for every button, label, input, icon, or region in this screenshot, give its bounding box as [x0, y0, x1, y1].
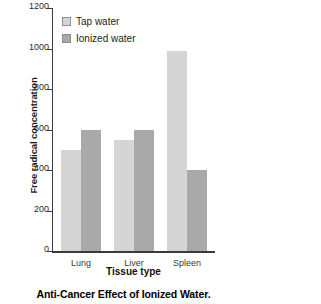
bar-liver-ionized-water [134, 130, 154, 252]
y-axis-tick-label: 400 [34, 163, 49, 173]
bar-liver-tap-water [114, 140, 134, 251]
legend-swatch-icon-tap [62, 17, 71, 26]
figure-caption: Anti-Cancer Effect of Ionized Water. [0, 288, 247, 300]
bar-spleen-tap-water [167, 51, 187, 251]
legend-label: Tap water [76, 16, 119, 27]
x-axis-line [52, 251, 215, 253]
legend-swatch-icon-ion [62, 34, 71, 43]
y-axis-tick-label: 600 [34, 123, 49, 133]
bar-lung-ionized-water [81, 130, 101, 252]
bar-lung-tap-water [61, 150, 81, 251]
chart-legend: Tap waterIonized water [62, 14, 135, 48]
figure-bar-chart: Free radical concentration 0200400600800… [0, 0, 321, 304]
y-axis-tick-label: 1200 [29, 1, 49, 11]
y-axis-title: Free radical concentration [28, 51, 39, 221]
legend-label: Ionized water [76, 33, 135, 44]
y-axis-tick-label: 800 [34, 82, 49, 92]
legend-item-tap: Tap water [62, 14, 135, 29]
y-axis-tick-label: 0 [44, 244, 49, 254]
y-axis-line [52, 8, 53, 251]
y-axis-tick-label: 1000 [29, 42, 49, 52]
legend-item-ion: Ionized water [62, 31, 135, 46]
y-axis-tick-label: 200 [34, 204, 49, 214]
bar-spleen-ionized-water [187, 170, 207, 251]
x-axis-title: Tissue type [52, 266, 215, 277]
